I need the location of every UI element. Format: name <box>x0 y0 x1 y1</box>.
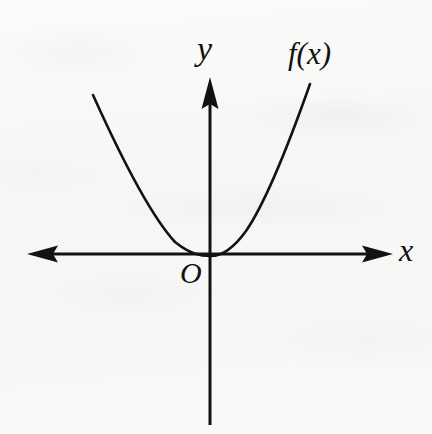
function-curve-label: f(x) <box>288 38 331 69</box>
figure-canvas: y x O f(x) <box>0 0 432 434</box>
parabola-curve <box>93 84 310 256</box>
origin-label: O <box>180 258 202 288</box>
y-axis-label: y <box>197 32 212 66</box>
coordinate-plane-figure <box>0 0 432 434</box>
y-axis <box>202 77 219 425</box>
x-axis-label: x <box>399 234 413 266</box>
